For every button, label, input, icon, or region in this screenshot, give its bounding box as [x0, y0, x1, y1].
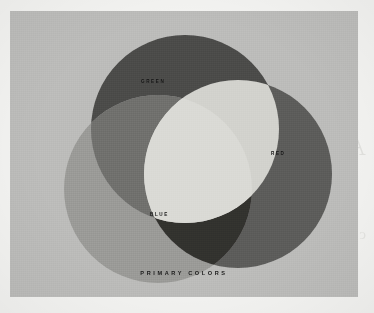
scanned-book-plate: Additive color mixing diagram — [0, 0, 374, 313]
venn-diagram — [10, 11, 358, 297]
figure-plate: GREEN RED BLUE PRIMARY COLORS — [10, 11, 358, 297]
halftone-grain-overlay — [91, 35, 279, 223]
figure-caption: PRIMARY COLORS — [10, 270, 358, 276]
